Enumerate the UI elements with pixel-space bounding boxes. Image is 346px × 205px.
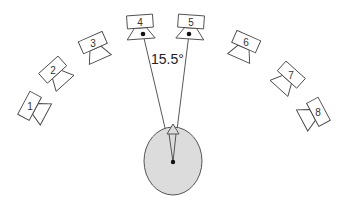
speaker-4: 4: [126, 14, 156, 40]
speaker-number: 8: [315, 107, 321, 118]
speaker-number: 5: [188, 17, 194, 28]
speaker-number: 7: [288, 70, 294, 81]
speaker-array-diagram: 15.5° 1 2 3 4 5 6 7: [0, 0, 346, 205]
speaker-number: 4: [137, 17, 143, 28]
speaker-1: 1: [18, 91, 52, 126]
angle-label: 15.5°: [151, 51, 184, 67]
speaker-number: 2: [50, 65, 56, 76]
speaker-number: 1: [27, 101, 33, 112]
speaker-5-point: [187, 32, 192, 37]
listener-head: [144, 124, 202, 195]
speaker-2: 2: [39, 56, 75, 92]
listener-center-point: [171, 160, 175, 164]
speaker-7: 7: [269, 61, 305, 97]
speaker-number: 6: [243, 37, 249, 48]
speaker-3: 3: [78, 31, 112, 64]
speaker-8: 8: [296, 97, 330, 132]
speaker-4-point: [141, 32, 146, 37]
speaker-6: 6: [227, 30, 261, 63]
speaker-5: 5: [176, 14, 206, 40]
speaker-number: 3: [90, 38, 96, 49]
